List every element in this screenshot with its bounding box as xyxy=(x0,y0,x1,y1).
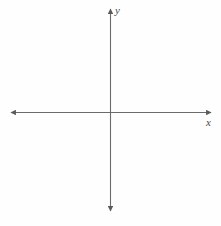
axes-svg xyxy=(0,0,221,226)
x-axis-label: x xyxy=(206,117,211,128)
y-axis-label: y xyxy=(115,5,120,16)
coordinate-plane-figure: y x xyxy=(0,0,221,226)
